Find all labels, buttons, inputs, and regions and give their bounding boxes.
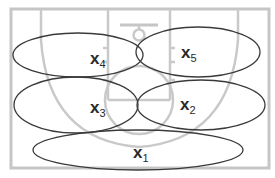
label-x4: x4 [90,49,106,70]
zone-x5 [136,27,260,77]
label-x3: x3 [90,98,106,119]
label-x2: x2 [180,95,196,116]
zone-x2 [137,80,265,130]
zone-x4 [13,33,143,77]
rim [134,30,145,41]
label-x5: x5 [181,43,197,64]
court-diagram: x1 x2 x3 x4 x5 [0,0,275,178]
